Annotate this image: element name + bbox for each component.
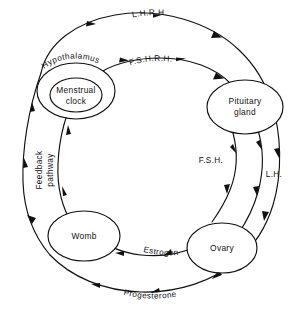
pituitary-ovary-links: [212, 127, 262, 234]
lh-label: L.H.: [266, 170, 282, 179]
lhrh-label: L.H.R.H.: [131, 8, 167, 20]
arrow-outer-bottom-left: [91, 283, 100, 288]
arrow-inner-bottom-left: [115, 251, 124, 256]
arrow-outer-left-lower: [27, 215, 36, 224]
feedback-pathway-label-group: Feedback pathway: [35, 150, 55, 190]
node-womb[interactable]: Womb: [48, 211, 120, 261]
arrow-inner-left-upper: [66, 125, 71, 135]
fshrh-label: F.S.H.R.H.: [128, 54, 173, 67]
arrow-inner-left-lower: [62, 186, 67, 196]
arrow-outer-top-right: [211, 31, 222, 38]
node-ovary[interactable]: Ovary: [187, 223, 257, 273]
menstrual-clock-label-line2: clock: [66, 96, 87, 106]
menstrual-clock-label-line1: Menstrual: [56, 85, 95, 95]
menstrual-cycle-diagram: Hypothalamus Menstrual clock Pituitary g…: [0, 0, 304, 314]
pituitary-label-line2: gland: [234, 107, 256, 117]
womb-label: Womb: [71, 231, 96, 241]
feedback-pathway-label-line2: pathway: [46, 153, 55, 187]
pituitary-label-line1: Pituitary: [229, 96, 262, 106]
node-hypothalamus[interactable]: Hypothalamus Menstrual clock: [37, 51, 115, 119]
node-pituitary-gland[interactable]: Pituitary gland: [207, 80, 283, 134]
arrow-outer-right-mid: [274, 148, 279, 158]
feedback-pathway-label-line1: Feedback: [35, 150, 44, 190]
fsh-label: F.S.H.: [199, 156, 223, 165]
ovary-label: Ovary: [210, 243, 234, 253]
diagram-canvas: Hypothalamus Menstrual clock Pituitary g…: [0, 0, 304, 314]
